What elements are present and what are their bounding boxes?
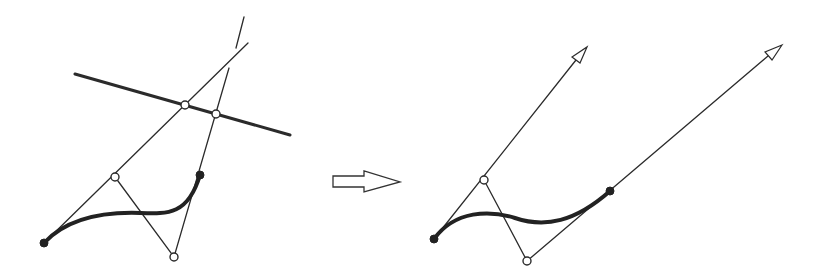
curve-start-point bbox=[430, 235, 438, 243]
control-line-b-upper bbox=[236, 17, 244, 48]
ray-a-arrowhead-icon bbox=[572, 47, 587, 63]
intersection-point-1 bbox=[181, 101, 189, 109]
control-point-2 bbox=[170, 253, 178, 261]
curve-end-point bbox=[196, 171, 204, 179]
ray-b bbox=[527, 56, 768, 261]
control-point-1 bbox=[111, 173, 119, 181]
bezier-curve bbox=[44, 175, 200, 243]
control-point-1 bbox=[480, 176, 488, 184]
control-line-b-lower bbox=[174, 68, 229, 257]
curve-end-point bbox=[606, 187, 614, 195]
control-segment-c1-c2 bbox=[115, 177, 174, 257]
curve-start-point bbox=[40, 239, 48, 247]
bezier-curve bbox=[434, 191, 610, 239]
transform-arrow-icon bbox=[333, 171, 400, 192]
left-figure bbox=[40, 17, 290, 261]
control-point-2 bbox=[523, 257, 531, 265]
right-figure bbox=[430, 45, 782, 265]
bezier-transformation-diagram bbox=[0, 0, 822, 276]
intersection-point-2 bbox=[212, 110, 220, 118]
ray-a bbox=[434, 60, 576, 239]
ray-b-arrowhead-icon bbox=[765, 45, 782, 60]
